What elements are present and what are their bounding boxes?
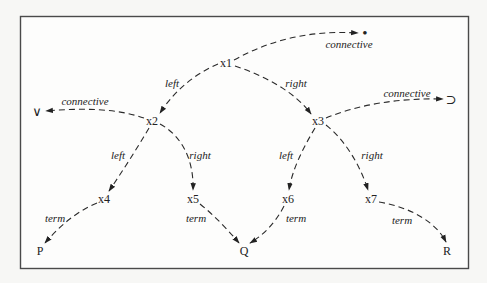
edge-label-x2-right: right: [189, 150, 210, 161]
node-x6: x6: [282, 193, 294, 205]
edge-label-x3-connective: connective: [383, 88, 430, 99]
node-x5: x5: [187, 193, 199, 205]
edge-label-x2-connective: connective: [61, 96, 108, 107]
node-x1: x1: [220, 57, 232, 69]
edge-label-x3-right: right: [361, 150, 382, 161]
edge-label-x2-left: left: [111, 150, 125, 161]
terminal-q: Q: [240, 245, 249, 257]
edge-label-x1-right: right: [285, 78, 306, 89]
edge-label-x4-term: term: [45, 213, 65, 224]
node-x3: x3: [312, 115, 324, 127]
edge-label-x7-term: term: [392, 215, 412, 226]
edge-label-x1-left: left: [165, 78, 179, 89]
implication-symbol-icon: ⊃: [446, 93, 457, 106]
disjunction-symbol-icon: ∨: [32, 105, 42, 118]
diagram-edges-layer: [0, 0, 487, 283]
diagram-canvas: x1 x2 x3 x4 x5 x6 x7 P Q R ∨ • ⊃ connect…: [0, 0, 487, 283]
node-x4: x4: [98, 193, 110, 205]
node-x2: x2: [146, 115, 158, 127]
edge-label-x5-term: term: [186, 213, 206, 224]
edge-label-x6-term: term: [286, 213, 306, 224]
terminal-r: R: [443, 245, 451, 257]
node-x7: x7: [365, 193, 377, 205]
edge-label-x1-connective: connective: [325, 39, 372, 50]
edge-label-x3-left: left: [279, 150, 293, 161]
terminal-p: P: [37, 245, 44, 257]
